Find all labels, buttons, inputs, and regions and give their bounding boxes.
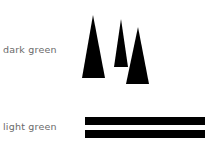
tree-triangle-2 <box>114 19 128 67</box>
tree-triangle-1 <box>82 15 105 78</box>
light-green-bars-icon <box>85 117 205 138</box>
bar-bottom <box>85 130 205 138</box>
tree-triangle-3 <box>126 27 149 84</box>
dark-green-tree-icon <box>82 15 149 84</box>
legend-symbols <box>0 0 205 150</box>
bar-top <box>85 117 205 125</box>
